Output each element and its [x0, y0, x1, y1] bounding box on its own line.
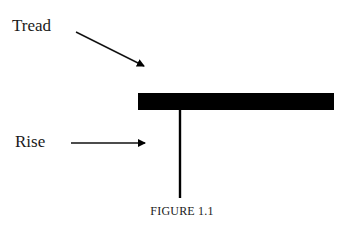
tread-bar	[138, 93, 334, 110]
figure-caption: FIGURE 1.1	[132, 204, 232, 219]
stair-diagram	[0, 0, 352, 229]
tread-arrow	[76, 32, 144, 66]
rise-label: Rise	[15, 133, 45, 150]
tread-label: Tread	[12, 17, 51, 34]
